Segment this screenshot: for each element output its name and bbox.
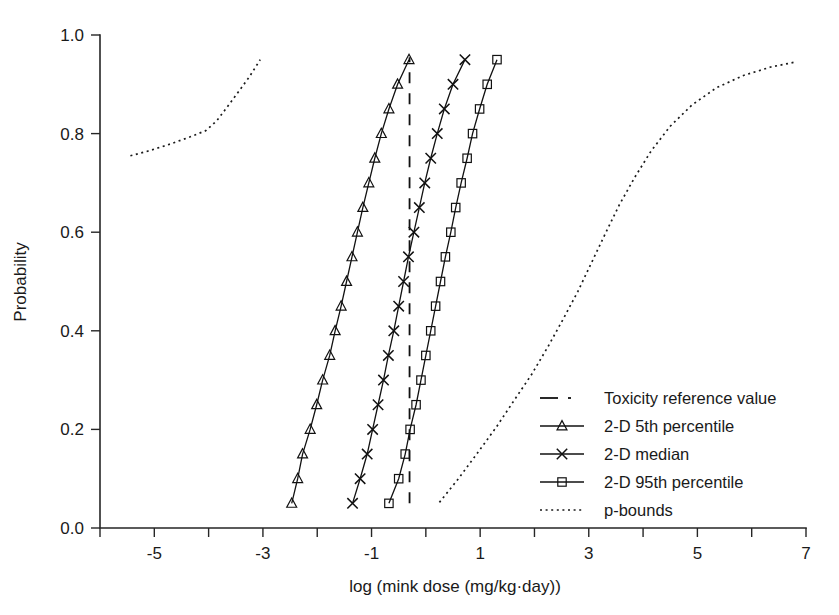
x-tick-label: 3 [584, 544, 593, 563]
legend-label: Toxicity reference value [604, 389, 776, 407]
x-tick-label: -3 [255, 544, 270, 563]
legend-label: 2-D median [604, 445, 689, 463]
legend-label: 2-D 5th percentile [604, 417, 734, 435]
y-axis-label: Probability [11, 242, 30, 322]
y-tick-label: 0.8 [60, 125, 84, 144]
y-tick-label: 0.2 [60, 420, 84, 439]
x-tick-label: 5 [693, 544, 702, 563]
chart-background [0, 0, 839, 615]
y-tick-label: 0.0 [60, 519, 84, 538]
legend-label: p-bounds [604, 501, 673, 519]
x-tick-label: -1 [364, 544, 379, 563]
chart-figure: -5-3-113570.00.20.40.60.81.0 Toxicity re… [0, 0, 839, 615]
y-tick-label: 0.6 [60, 223, 84, 242]
probability-chart: -5-3-113570.00.20.40.60.81.0 Toxicity re… [0, 0, 839, 615]
x-tick-label: 1 [475, 544, 484, 563]
y-tick-label: 0.4 [60, 322, 84, 341]
y-tick-label: 1.0 [60, 26, 84, 45]
x-axis-label: log (mink dose (mg/kg·day)) [349, 577, 561, 596]
x-tick-label: 7 [801, 544, 810, 563]
legend-label: 2-D 95th percentile [604, 473, 743, 491]
x-tick-label: -5 [147, 544, 162, 563]
